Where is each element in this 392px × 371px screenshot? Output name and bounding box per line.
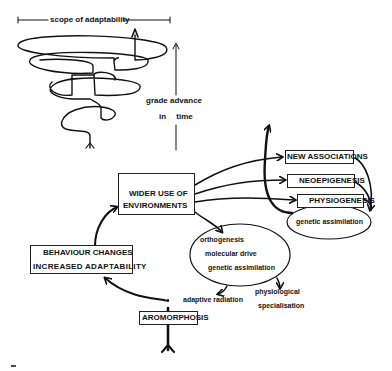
oval-item-genetic-assimilation: genetic assimilation	[208, 264, 275, 271]
aromorphosis-label: AROMORPHOSIS	[142, 314, 209, 322]
genetic-assimilation-right-label: genetic assimilation	[296, 218, 363, 225]
specialisation-label: specialisation	[258, 302, 304, 309]
physiogenesis-label: PHYSIOGENESIS	[309, 197, 375, 205]
new-associations-label: NEW ASSOCIATIONS	[287, 153, 368, 161]
in-time-label: in time	[159, 113, 193, 121]
grade-advance-label: grade advance	[146, 97, 202, 105]
oval-item-molecular-drive: molecular drive	[205, 250, 257, 257]
oval-item-orthogenesis: orthogenesis	[200, 236, 244, 243]
scope-label: scope of adaptability	[50, 16, 130, 24]
neoepigenesis-label: NEOEPIGENESIS	[299, 177, 365, 185]
wider-use-line1: WIDER USE OF	[129, 190, 188, 198]
behaviour-line2: INCREASED ADAPTABILITY	[33, 263, 147, 271]
wider-use-line2: ENVIRONMENTS	[123, 202, 187, 210]
behaviour-line1: BEHAVIOUR CHANGES	[43, 249, 133, 257]
adaptive-radiation-label: adaptive radiation	[183, 296, 243, 303]
physiological-label: physiological	[255, 288, 300, 295]
spiral-path	[18, 35, 167, 148]
